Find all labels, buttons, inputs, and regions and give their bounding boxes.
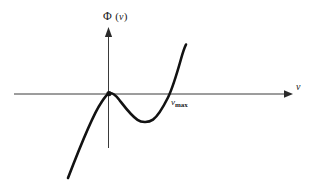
- plot-canvas: [0, 0, 312, 186]
- origin-touch-point: [106, 91, 111, 96]
- phi-symbol: Φ: [103, 9, 112, 23]
- potential-function-figure: Φ (v) v vmax: [0, 0, 312, 186]
- x-axis-label: v: [296, 82, 300, 92]
- y-axis-close-paren: ): [124, 10, 128, 22]
- vmax-subscript: max: [175, 101, 188, 109]
- figure-background: [0, 0, 312, 186]
- y-axis-label: Φ (v): [103, 10, 128, 22]
- vmax-annotation: vmax: [171, 98, 188, 109]
